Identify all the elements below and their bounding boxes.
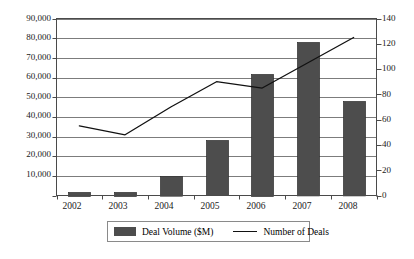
bar-2007	[298, 43, 320, 196]
bar-series-deal-volume	[69, 43, 366, 197]
bar-2005	[207, 141, 229, 196]
chart-legend: Deal Volume ($M) Number of Deals	[107, 221, 310, 242]
bar-2008	[344, 102, 366, 196]
dual-axis-chart: 90,000 80,000 70,000 60,000 50,000 40,00…	[0, 0, 414, 259]
legend-swatch-deal-volume	[114, 227, 136, 236]
bar-2004	[161, 177, 183, 197]
legend-line-number-of-deals	[233, 231, 257, 232]
bar-2006	[252, 75, 274, 197]
right-axis-ticks	[377, 20, 382, 197]
legend-label-deal-volume: Deal Volume ($M)	[142, 227, 213, 237]
legend-label-number-of-deals: Number of Deals	[263, 227, 328, 237]
